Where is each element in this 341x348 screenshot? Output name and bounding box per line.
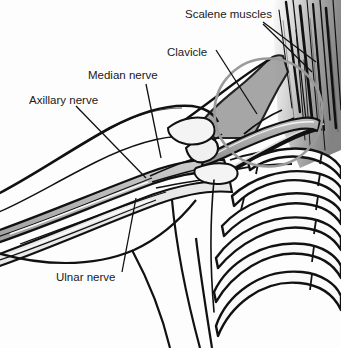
label-axillary-nerve: Axillary nerve xyxy=(29,94,98,106)
label-clavicle: Clavicle xyxy=(167,46,207,58)
label-median-nerve: Median nerve xyxy=(88,69,158,81)
label-ulnar-nerve: Ulnar nerve xyxy=(56,271,115,283)
anatomy-figure: Scalene muscles Clavicle Median nerve Ax… xyxy=(0,0,341,348)
anatomy-illustration: Scalene muscles Clavicle Median nerve Ax… xyxy=(0,0,341,348)
label-scalene-muscles: Scalene muscles xyxy=(185,8,272,20)
